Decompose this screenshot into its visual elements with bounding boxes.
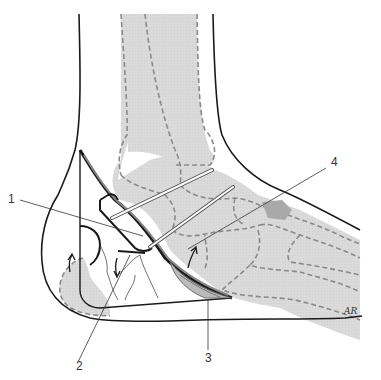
foot-diagram [0,0,381,380]
callout-4: 4 [331,156,338,168]
fracture-lines [100,245,158,300]
callout-1: 1 [8,193,15,205]
artist-signature: AR [344,306,357,316]
callout-2: 2 [76,360,83,372]
leader-line-1 [20,200,143,236]
callout-3: 3 [205,352,212,364]
